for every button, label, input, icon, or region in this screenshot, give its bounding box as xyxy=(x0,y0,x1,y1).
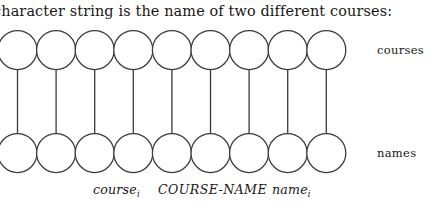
course-entity-circle xyxy=(268,31,307,70)
caption-right-operand: namei xyxy=(272,182,311,197)
course-entity-circle xyxy=(0,31,37,70)
connector-group xyxy=(18,70,327,134)
course-entity-circle xyxy=(307,31,346,70)
bottom-row-circle-group xyxy=(0,134,346,173)
caption-right-operand-base: name xyxy=(272,182,308,197)
course-entity-circle xyxy=(37,31,76,70)
name-entity-circle xyxy=(37,134,76,173)
name-entity-circle xyxy=(191,134,230,173)
er-instance-diagram xyxy=(0,26,433,208)
name-entity-circle xyxy=(114,134,153,173)
name-entity-circle xyxy=(307,134,346,173)
body-text-sentence: character string is the name of two diff… xyxy=(0,1,392,21)
caption-relationship: COURSE-NAME xyxy=(158,182,267,197)
course-entity-circle xyxy=(75,31,114,70)
diagram-canvas xyxy=(0,26,433,208)
caption-left-operand-subscript: i xyxy=(137,189,140,199)
course-entity-circle xyxy=(230,31,269,70)
top-row-circle-group xyxy=(0,31,346,70)
row-label-names: names xyxy=(377,146,416,160)
name-entity-circle xyxy=(230,134,269,173)
name-entity-circle xyxy=(75,134,114,173)
name-entity-circle xyxy=(0,134,37,173)
caption-left-operand-base: course xyxy=(93,182,137,197)
caption-right-operand-subscript: i xyxy=(308,189,311,199)
name-entity-circle xyxy=(152,134,191,173)
caption-left-operand: coursei xyxy=(93,182,140,197)
course-entity-circle xyxy=(114,31,153,70)
diagram-caption: coursei COURSE-NAME namei xyxy=(0,182,433,208)
row-label-courses: courses xyxy=(377,43,424,57)
course-entity-circle xyxy=(152,31,191,70)
course-entity-circle xyxy=(191,31,230,70)
body-text-line: character string is the name of two diff… xyxy=(0,1,433,23)
name-entity-circle xyxy=(268,134,307,173)
